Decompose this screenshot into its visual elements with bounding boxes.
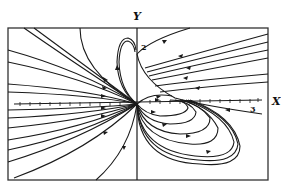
phase-portrait: Y X 2 3 (0, 0, 281, 187)
lower-right-loops (137, 100, 240, 165)
y-axis-label: Y (133, 10, 142, 23)
x-axis-label: X (271, 95, 281, 108)
direction-arrows (101, 40, 230, 154)
